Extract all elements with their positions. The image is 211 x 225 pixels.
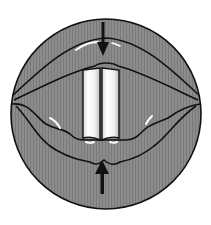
left-vocal-cord [83, 68, 100, 140]
vocal-fold-illustration [0, 0, 211, 225]
laryngoscope-view-figure: Laryngoscopic view of the vocal folds wi… [0, 0, 211, 225]
cord-bottom-highlight-left [86, 142, 94, 143]
right-vocal-cord [102, 68, 119, 140]
cord-bottom-highlight-right [110, 142, 117, 143]
